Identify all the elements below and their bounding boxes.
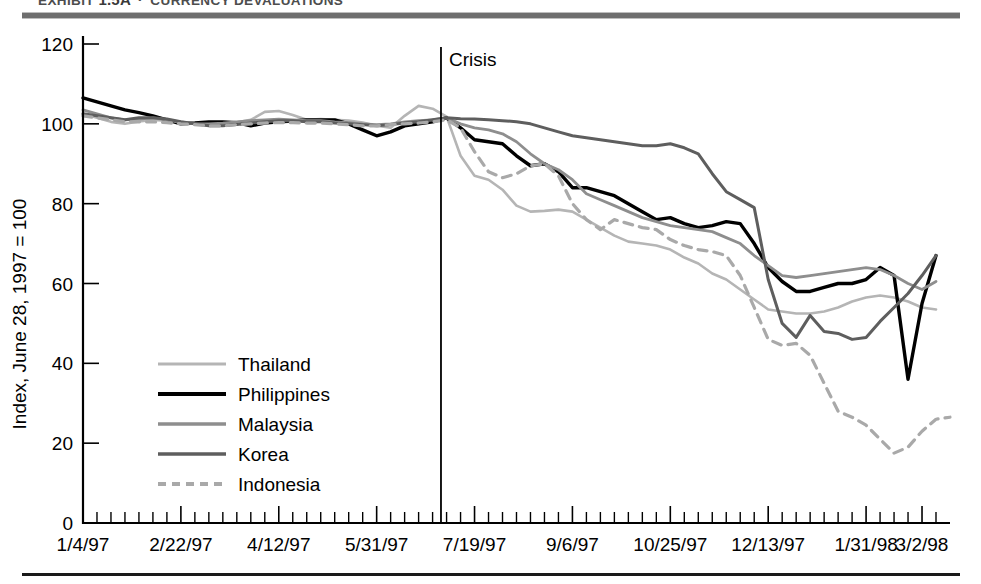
legend-label-philippines: Philippines [238,384,330,405]
crisis-label: Crisis [449,49,497,70]
x-tick-label: 10/25/97 [633,534,707,555]
y-tick-label: 100 [41,114,73,135]
y-tick-label: 80 [52,194,73,215]
series-group [83,98,950,453]
x-axis-ticks: 1/4/972/22/974/12/975/31/977/19/979/6/97… [57,506,949,555]
y-axis-title-text: Index, June 28, 1997 = 100 [9,199,30,430]
chart-svg: Crisis 020406080100120 1/4/972/22/974/12… [0,24,981,564]
x-tick-label: 1/31/98 [834,534,897,555]
exhibit-separator: · [135,0,146,8]
axes-group: 020406080100120 1/4/972/22/974/12/975/31… [41,34,950,555]
axis-lines [83,36,950,523]
y-tick-label: 0 [62,513,73,534]
x-tick-label: 4/12/97 [247,534,310,555]
x-tick-label: 12/13/97 [731,534,805,555]
series-line-indonesia [83,116,950,453]
chart-legend: ThailandPhilippinesMalaysiaKoreaIndonesi… [158,354,330,495]
x-tick-label: 3/2/98 [896,534,949,555]
exhibit-label: EXHIBIT [38,0,94,8]
y-tick-label: 120 [41,34,73,55]
exhibit-title: EXHIBIT 1.5A · CURRENCY DEVALUATIONS [38,0,343,8]
header-divider-rule [22,12,960,19]
exhibit-number: 1.5A [98,0,130,8]
exhibit-title-text: CURRENCY DEVALUATIONS [150,0,343,8]
series-line-philippines [83,98,936,379]
legend-label-malaysia: Malaysia [238,414,313,435]
y-axis-title: Index, June 28, 1997 = 100 [9,199,30,430]
y-tick-label: 40 [52,353,73,374]
currency-devaluation-chart: Crisis 020406080100120 1/4/972/22/974/12… [0,24,981,564]
exhibit-header: EXHIBIT 1.5A · CURRENCY DEVALUATIONS [0,0,981,24]
series-line-malaysia [83,110,936,290]
legend-label-indonesia: Indonesia [238,474,321,495]
x-tick-label: 5/31/97 [345,534,408,555]
x-tick-label: 7/19/97 [443,534,506,555]
footer-divider-rule [22,573,960,576]
x-tick-label: 2/22/97 [149,534,212,555]
x-tick-label: 1/4/97 [57,534,110,555]
y-tick-label: 20 [52,433,73,454]
legend-label-thailand: Thailand [238,354,311,375]
legend-label-korea: Korea [238,444,289,465]
y-tick-label: 60 [52,274,73,295]
y-axis-ticks: 020406080100120 [41,34,99,534]
x-tick-label: 9/6/97 [546,534,599,555]
